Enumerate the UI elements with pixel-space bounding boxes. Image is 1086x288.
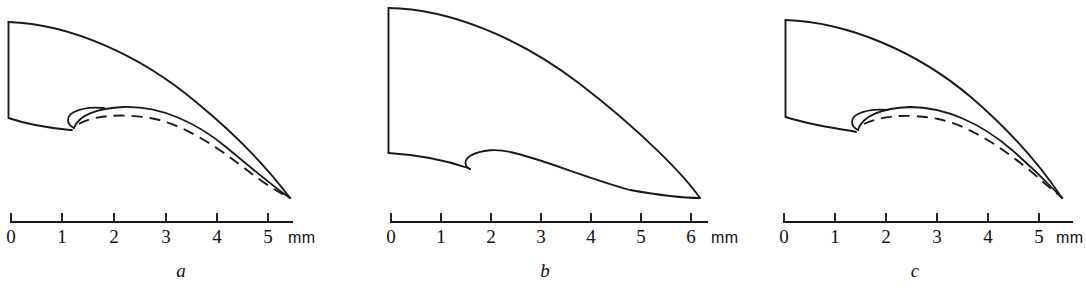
panel-label-b: b (540, 260, 550, 281)
panel-c-upper-curve (786, 20, 1063, 198)
panel-c-tick-label-5: 5 (1034, 226, 1044, 247)
panel-a-tick-label-0: 0 (6, 226, 16, 247)
panel-c-tick-label-4: 4 (983, 226, 993, 247)
panel-c-unit-label: mm (1056, 229, 1084, 246)
panel-a-tick-label-3: 3 (161, 226, 171, 247)
panel-a-dashed-overlay (79, 116, 291, 198)
panel-c-tick-label-1: 1 (830, 226, 840, 247)
panel-a-unit-label: mm (288, 229, 316, 246)
figure-container: 0 1 2 3 4 5 mm a (0, 0, 1086, 288)
panel-c-tick-label-2: 2 (881, 226, 891, 247)
panel-b-tick-label-0: 0 (386, 226, 396, 247)
panel-b-upper-curve (389, 8, 701, 198)
panel-b-tick-label-4: 4 (586, 226, 596, 247)
panel-a-tick-label-5: 5 (263, 226, 273, 247)
panel-b-scale-bar: 0 1 2 3 4 5 6 mm (386, 213, 738, 247)
panel-c-inner-crest (858, 107, 1062, 198)
panel-a-scale-bar: 0 1 2 3 4 5 mm (6, 213, 315, 247)
panel-b-inner-crest (389, 153, 471, 169)
panel-b-tick-label-5: 5 (636, 226, 646, 247)
panel-c-dashed-overlay (864, 116, 1063, 198)
panel-label-c: c (911, 260, 920, 281)
panel-a-inner-crest (74, 107, 290, 198)
panel-c-scale-bar: 0 1 2 3 4 5 mm (779, 213, 1083, 247)
panel-b-unit-label: mm (711, 229, 739, 246)
panel-a-tick-label-1: 1 (57, 226, 67, 247)
panel-a-tick-label-2: 2 (109, 226, 119, 247)
panel-b-tick-label-3: 3 (536, 226, 546, 247)
panel-a: 0 1 2 3 4 5 mm a (6, 22, 315, 281)
panel-b-tick-label-2: 2 (486, 226, 496, 247)
panel-label-a: a (176, 260, 186, 281)
panel-c-tick-label-3: 3 (932, 226, 942, 247)
panel-c-inner-hook (852, 110, 888, 130)
panel-c-outer-outline (786, 20, 857, 132)
panel-b-tick-label-6: 6 (686, 226, 696, 247)
figure-canvas: 0 1 2 3 4 5 mm a (0, 0, 1086, 288)
panel-b: 0 1 2 3 4 5 6 mm b (386, 8, 738, 281)
panel-a-tick-label-4: 4 (212, 226, 222, 247)
panel-b-tick-label-1: 1 (436, 226, 446, 247)
panel-a-outer-outline (9, 22, 73, 130)
panel-c: 0 1 2 3 4 5 mm c (779, 20, 1083, 281)
panel-c-tick-label-0: 0 (779, 226, 789, 247)
